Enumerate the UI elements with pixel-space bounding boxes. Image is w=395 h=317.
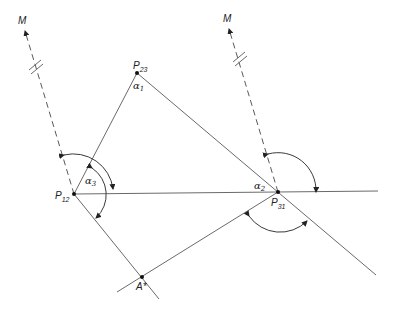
point-p12	[72, 192, 76, 196]
dashed-line-left-m	[25, 31, 74, 194]
line-horizontal-p12-p31	[74, 191, 378, 194]
label-alpha2: α2	[254, 180, 266, 193]
angle-arc-p31-lower	[249, 216, 307, 232]
dashed-line-right-m	[229, 29, 278, 192]
label-m-right: M	[223, 13, 232, 24]
point-astar	[140, 275, 144, 279]
label-alpha1: α1	[133, 80, 144, 93]
diagram-canvas: M M P23 P12 P31 A* α1 α2 α3	[0, 0, 395, 317]
point-p31	[276, 190, 280, 194]
line-p12-p23	[74, 73, 137, 194]
label-alpha3: α3	[85, 175, 97, 188]
label-m-left: M	[18, 15, 27, 26]
label-p12: P12	[55, 190, 70, 203]
angle-arc-p31-upper	[268, 153, 316, 192]
label-astar: A*	[135, 281, 148, 292]
point-p23	[135, 71, 139, 75]
line-p23-p31-extended	[137, 73, 376, 275]
angle-arc-p12-inner	[92, 168, 106, 218]
label-p23: P23	[133, 60, 148, 73]
label-p31: P31	[271, 197, 286, 210]
